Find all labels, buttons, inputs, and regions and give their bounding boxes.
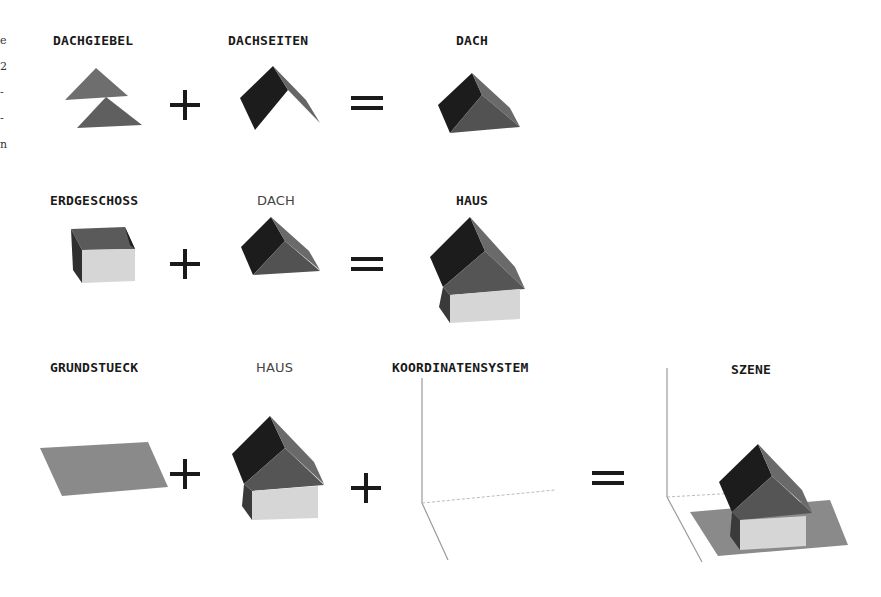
equals-operator-icon xyxy=(591,469,625,489)
label-haus: HAUS xyxy=(456,193,488,208)
equals-operator-icon xyxy=(350,255,384,275)
label-erdgeschoss: ERDGESCHOSS xyxy=(50,193,138,208)
margin-fragment: e xyxy=(0,28,7,54)
label-dach: DACH xyxy=(456,33,488,48)
roof-sides-icon xyxy=(230,60,330,140)
margin-fragment: - xyxy=(0,80,7,106)
roof-icon xyxy=(235,215,335,295)
label-koordinatensystem: KOORDINATENSYSTEM xyxy=(392,360,528,375)
label-dachgiebel: DACHGIEBEL xyxy=(53,33,133,48)
gable-triangles-icon xyxy=(60,65,150,135)
margin-fragment: n xyxy=(0,132,7,158)
house-icon xyxy=(425,215,530,325)
plot-plane-icon xyxy=(38,440,173,500)
house-icon xyxy=(228,414,328,524)
cropped-margin-text: e 2 - - n xyxy=(0,28,7,158)
scene-icon xyxy=(660,360,860,580)
plus-operator-icon xyxy=(349,471,383,505)
label-haus-input: HAUS xyxy=(256,360,293,375)
equals-operator-icon xyxy=(350,94,384,114)
roof-icon xyxy=(430,65,530,145)
ground-floor-box-icon xyxy=(60,215,150,290)
label-grundstueck: GRUNDSTUECK xyxy=(50,360,138,375)
plus-operator-icon xyxy=(168,457,202,491)
margin-fragment: 2 xyxy=(0,54,7,80)
plus-operator-icon xyxy=(168,247,202,281)
margin-fragment: - xyxy=(0,106,7,132)
plus-operator-icon xyxy=(168,88,202,122)
label-dachseiten: DACHSEITEN xyxy=(228,33,308,48)
label-dach-input: DACH xyxy=(257,193,295,208)
coordinate-axes-icon xyxy=(410,375,560,575)
